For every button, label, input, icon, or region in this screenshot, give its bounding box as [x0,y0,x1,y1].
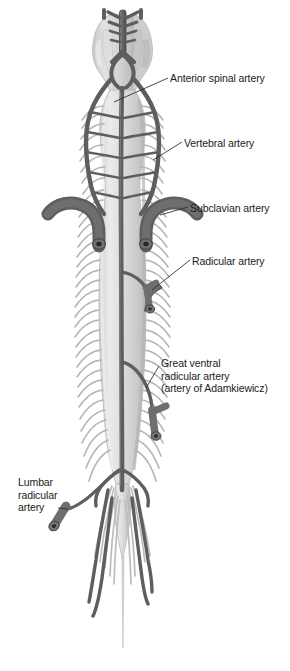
leader-adamkiewicz [146,366,159,388]
label-line: Anterior spinal artery [170,72,265,85]
label-line: Great ventral [161,357,268,370]
anterior-spinal-artery [121,88,122,490]
label-line: Lumbar [18,476,57,489]
adamkiewicz-stub [152,410,155,434]
label-line: (artery of Adamkiewicz) [161,382,268,395]
label-line: radicular artery [161,370,268,383]
label-great-ventral-radicular-artery: Great ventral radicular artery (artery o… [161,357,268,395]
subclavian-left-lumen [96,242,101,247]
spinal-cord-arterial-supply-figure: Anterior spinal artery Vertebral artery … [0,0,290,671]
anterior-spinal-artery-group [120,88,122,490]
label-anterior-spinal-artery: Anterior spinal artery [170,72,265,85]
label-line: Subclavian artery [190,202,269,215]
filum-terminale [122,556,124,648]
label-vertebral-artery: Vertebral artery [184,137,254,150]
anterior-spinal-artery-highlight [120,92,121,486]
label-subclavian-artery: Subclavian artery [190,202,269,215]
label-line: artery [18,501,57,514]
label-line: Vertebral artery [184,137,254,150]
label-line: radicular [18,489,57,502]
label-radicular-artery: Radicular artery [192,255,265,268]
anatomical-illustration [0,0,290,671]
radicular-artery-lumen [148,307,152,310]
label-lumbar-radicular-artery: Lumbar radicular artery [18,476,57,514]
adamkiewicz-lumen [154,434,158,438]
label-line: Radicular artery [192,255,265,268]
subclavian-right-lumen [143,242,148,247]
